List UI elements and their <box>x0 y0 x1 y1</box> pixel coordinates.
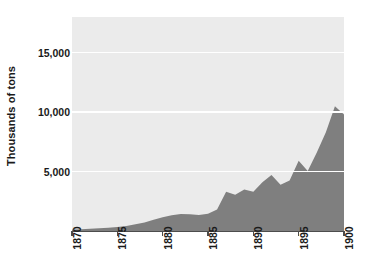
y-axis-title: Thousands of tons <box>0 0 22 231</box>
plot-area <box>72 17 344 231</box>
area-series <box>72 17 344 231</box>
y-tick-label-10000: 10,000 <box>26 107 70 118</box>
x-tick-label-1900: 1900 <box>324 238 364 252</box>
gridline-y-10000 <box>72 111 344 113</box>
x-tick-label-1895: 1895 <box>279 238 319 252</box>
x-tick-label-1875: 1875 <box>97 238 137 252</box>
y-tick-label-5000: 5,000 <box>26 167 70 178</box>
x-tick-label-1880: 1880 <box>143 238 183 252</box>
x-tick-label-text: 1900 <box>344 226 355 249</box>
series-area-path <box>72 106 344 231</box>
x-tick-mark-1880 <box>162 231 163 236</box>
x-tick-mark-1885 <box>207 231 208 236</box>
gridline-y-5000 <box>72 171 344 173</box>
y-tick-label-15000: 15,000 <box>26 48 70 59</box>
x-tick-mark-1870 <box>71 231 72 236</box>
x-tick-mark-1890 <box>253 231 254 236</box>
gridline-y-15000 <box>72 52 344 54</box>
x-tick-mark-1875 <box>117 231 118 236</box>
y-axis-title-label: Thousands of tons <box>5 65 17 165</box>
x-tick-mark-1895 <box>298 231 299 236</box>
area-chart: Thousands of tons 5,00010,00015,000 1870… <box>0 0 368 276</box>
x-tick-mark-1900 <box>343 231 344 236</box>
x-tick-label-1890: 1890 <box>233 238 273 252</box>
x-tick-label-1885: 1885 <box>188 238 228 252</box>
y-axis-tick-labels: 5,00010,00015,000 <box>22 0 70 276</box>
